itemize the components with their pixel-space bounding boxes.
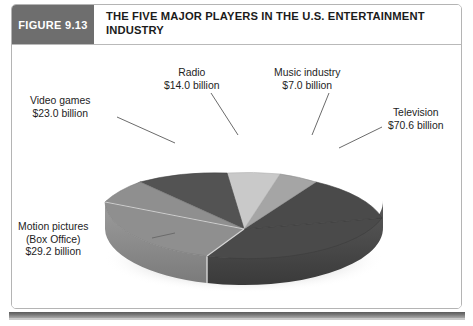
pie-chart-area: Radio $14.0 billion Music industry $7.0 … xyxy=(12,45,461,308)
page-bottom-edge-tip xyxy=(9,318,465,320)
leader-line-music xyxy=(312,93,329,135)
callout-motion-pictures: Motion pictures (Box Office) $29.2 billi… xyxy=(18,221,88,259)
callout-radio-name: Radio xyxy=(164,67,219,80)
callout-music-industry-value: $7.0 billion xyxy=(274,80,340,93)
callout-motion-pictures-value: $29.2 billion xyxy=(18,246,88,259)
callout-motion-pictures-name: Motion pictures xyxy=(18,221,88,234)
pie-chart-graphic xyxy=(12,45,462,309)
callout-television-value: $70.6 billion xyxy=(388,120,443,133)
leader-line-radio xyxy=(211,93,238,135)
callout-television-name: Television xyxy=(388,107,443,120)
figure-header: FIGURE 9.13 THE FIVE MAJOR PLAYERS IN TH… xyxy=(12,5,461,45)
figure-title: THE FIVE MAJOR PLAYERS IN THE U.S. ENTER… xyxy=(106,10,453,37)
callout-video-games: Video games $23.0 billion xyxy=(30,95,90,120)
callout-television: Television $70.6 billion xyxy=(388,107,443,132)
leader-line-television xyxy=(339,127,382,148)
figure-number-badge: FIGURE 9.13 xyxy=(12,5,94,44)
callout-music-industry: Music industry $7.0 billion xyxy=(274,67,340,92)
callout-radio: Radio $14.0 billion xyxy=(164,67,219,92)
callout-music-industry-name: Music industry xyxy=(274,67,340,80)
figure-card: FIGURE 9.13 THE FIVE MAJOR PLAYERS IN TH… xyxy=(11,4,462,309)
callout-video-games-name: Video games xyxy=(30,95,90,108)
callout-video-games-value: $23.0 billion xyxy=(30,108,90,121)
callout-radio-value: $14.0 billion xyxy=(164,80,219,93)
leader-line-video-games xyxy=(117,117,175,143)
callout-motion-pictures-sub: (Box Office) xyxy=(18,234,88,247)
